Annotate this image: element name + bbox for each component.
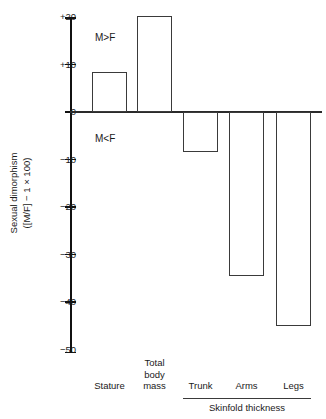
category-label-legs: Legs [267, 380, 320, 392]
y-tick-label: +10 [46, 60, 76, 70]
sexual-dimorphism-bar-chart: Sexual dimorphism ([M/F] − 1 × 100) +20+… [0, 0, 326, 419]
y-axis-label-text: Sexual dimorphism ([M/F] − 1 × 100) [7, 118, 33, 268]
skinfold-thickness-rule [183, 398, 311, 399]
male-less-than-female-annotation: M<F [95, 133, 115, 144]
y-tick-label-row: −10 [28, 155, 76, 165]
y-tick-label-row: −20 [28, 202, 76, 212]
y-tick-label: −40 [46, 297, 76, 307]
category-label-line: Total [144, 357, 164, 368]
category-label-line: Arms [235, 380, 257, 391]
category-label-line: Trunk [189, 380, 213, 391]
skinfold-thickness-label: Skinfold thickness [183, 402, 311, 413]
bar-trunk [183, 112, 218, 152]
y-tick-label: −10 [46, 155, 76, 165]
bar-arms [229, 112, 264, 276]
category-label-line: Stature [94, 380, 125, 391]
y-axis-label-line1: Sexual dimorphism [8, 153, 19, 234]
y-axis-label: Sexual dimorphism ([M/F] − 1 × 100) [0, 120, 40, 270]
y-tick-label: −30 [46, 250, 76, 260]
category-label-line: Legs [283, 380, 304, 391]
y-tick-label: −20 [46, 202, 76, 212]
y-tick-label-row: 0 [28, 107, 76, 117]
y-tick-label-row: −40 [28, 297, 76, 307]
category-label-line: mass [143, 380, 166, 391]
y-axis-label-line2: ([M/F] − 1 × 100) [21, 158, 32, 229]
y-tick-label: −50 [46, 345, 76, 355]
bar-legs [276, 112, 311, 326]
y-tick-label-row: +20 [28, 12, 76, 22]
y-tick-label-row: −50 [28, 345, 76, 355]
y-tick-label: +20 [46, 12, 76, 22]
category-label-arms: Arms [220, 380, 273, 392]
male-greater-than-female-annotation: M>F [95, 32, 115, 43]
y-tick-label-row: −30 [28, 250, 76, 260]
bar-total-body-mass [137, 16, 172, 112]
y-tick-label-row: +10 [28, 60, 76, 70]
category-label-line: body [144, 369, 165, 380]
bar-stature [92, 72, 127, 112]
